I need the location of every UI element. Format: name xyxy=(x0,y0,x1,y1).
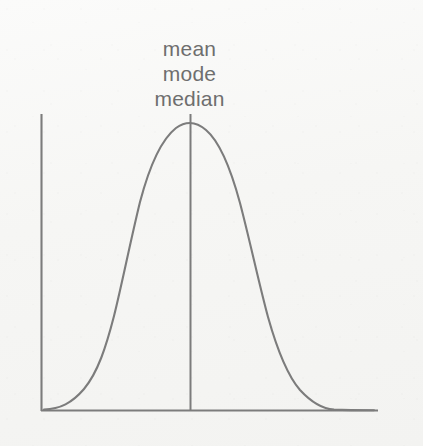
plot-svg xyxy=(0,0,423,446)
gaussian-curve xyxy=(44,123,374,410)
distribution-figure: mean mode median xyxy=(0,0,423,446)
